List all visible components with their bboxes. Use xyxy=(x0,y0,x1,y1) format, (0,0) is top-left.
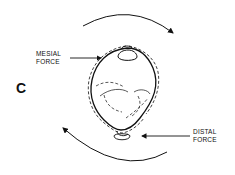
distal-force-label: DISTAL FORCE xyxy=(193,128,217,144)
mesial-force-label-line2: FORCE xyxy=(36,58,61,66)
bottom-rotation-arrow xyxy=(63,128,167,161)
mesial-force-label: MESIAL FORCE xyxy=(36,50,61,66)
panel-label: C xyxy=(16,80,26,96)
distal-force-label-line1: DISTAL xyxy=(193,128,217,136)
mesial-force-label-line1: MESIAL xyxy=(36,50,61,58)
diagram-canvas xyxy=(0,0,235,175)
distal-force-label-line2: FORCE xyxy=(193,136,217,144)
tooth-outline xyxy=(88,46,158,140)
top-rotation-arrow xyxy=(83,15,173,33)
